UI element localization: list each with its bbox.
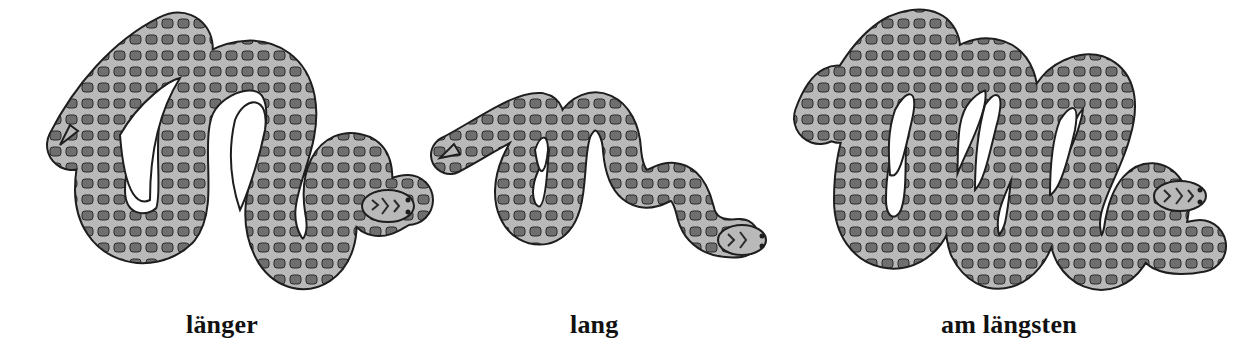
snake-comparison-figure [0,0,1260,300]
snake-long-icon [820,35,1206,263]
snake-short-icon [440,111,766,255]
label-long: lang [570,310,618,340]
label-longer: länger [186,310,258,340]
label-longest: am längsten [941,310,1077,340]
